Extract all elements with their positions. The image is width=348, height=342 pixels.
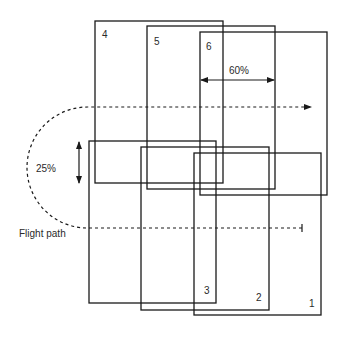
photo-frame-3 xyxy=(89,141,216,303)
photo-number-6: 6 xyxy=(206,41,212,52)
photo-number-3: 3 xyxy=(204,285,210,296)
photo-number-1: 1 xyxy=(309,298,315,309)
photo-frame-6 xyxy=(200,32,327,195)
forward-overlap-indicator: 60% xyxy=(201,65,274,80)
side-overlap-indicator: 25% xyxy=(36,142,79,183)
overlap-diagram: 123456 Flight path 60% 25% xyxy=(0,0,348,342)
side-overlap-label: 25% xyxy=(36,163,56,174)
photo-frame-1 xyxy=(194,153,321,315)
flight-path-label: Flight path xyxy=(19,228,66,239)
forward-overlap-label: 60% xyxy=(229,65,249,76)
photo-number-5: 5 xyxy=(154,36,160,47)
photo-number-2: 2 xyxy=(256,292,262,303)
photo-frames: 123456 xyxy=(89,21,327,315)
flight-path: Flight path xyxy=(19,107,311,239)
photo-number-4: 4 xyxy=(102,29,108,40)
